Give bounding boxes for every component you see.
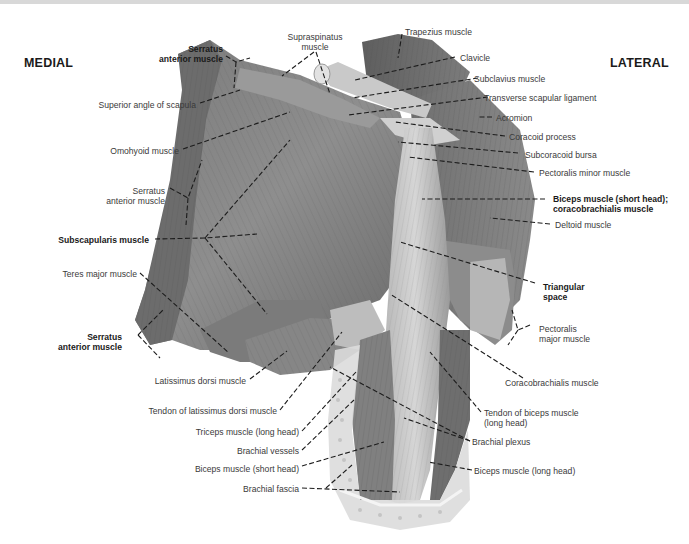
label-omohyoid: Omohyoid muscle xyxy=(110,146,179,156)
label-supraspinatus: Supraspinatus muscle xyxy=(283,32,347,52)
label-brachial-fascia: Brachial fascia xyxy=(243,484,299,494)
label-latissimus-dorsi: Latissimus dorsi muscle xyxy=(155,376,246,386)
label-clavicle: Clavicle xyxy=(460,53,490,63)
label-superior-angle: Superior angle of scapula xyxy=(99,100,196,110)
label-subcoracoid-bursa: Subcoracoid bursa xyxy=(525,150,597,160)
label-biceps-short-head: Biceps muscle (short head) xyxy=(195,464,299,474)
label-serratus-anterior-top: Serratus anterior muscle xyxy=(159,44,223,64)
label-acromion: Acromion xyxy=(496,113,532,123)
label-tendon-biceps-long-head: Tendon of biceps muscle (long head) xyxy=(484,408,579,428)
label-serratus-anterior-mid: Serratus anterior muscle xyxy=(106,186,165,206)
label-biceps-short-coracobrachialis: Biceps muscle (short head); coracobrachi… xyxy=(553,194,668,214)
label-trapezius: Trapezius muscle xyxy=(405,27,472,37)
label-brachial-plexus: Brachial plexus xyxy=(472,437,530,447)
label-brachial-vessels: Brachial vessels xyxy=(237,446,299,456)
label-teres-major: Teres major muscle xyxy=(63,269,138,279)
label-transverse-scapular-ligament: Transverse scapular ligament xyxy=(484,93,596,103)
label-subscapularis: Subscapularis muscle xyxy=(58,235,149,245)
label-serratus-anterior-bottom: Serratus anterior muscle xyxy=(58,332,122,352)
label-subclavius: Subclavius muscle xyxy=(474,74,545,84)
label-coracobrachialis: Coracobrachialis muscle xyxy=(505,378,599,388)
label-tendon-latissimus: Tendon of latissimus dorsi muscle xyxy=(149,406,277,416)
label-deltoid: Deltoid muscle xyxy=(555,220,611,230)
label-coracoid-process: Coracoid process xyxy=(509,132,576,142)
label-triangular-space: Triangular space xyxy=(543,282,585,302)
label-pectoralis-minor: Pectoralis minor muscle xyxy=(539,168,630,178)
label-biceps-long-head: Biceps muscle (long head) xyxy=(474,466,575,476)
label-triceps-long-head: Triceps muscle (long head) xyxy=(196,427,299,437)
label-pectoralis-major: Pectoralis major muscle xyxy=(539,324,590,344)
orientation-medial: MEDIAL xyxy=(24,56,73,70)
orientation-lateral: LATERAL xyxy=(610,56,669,70)
